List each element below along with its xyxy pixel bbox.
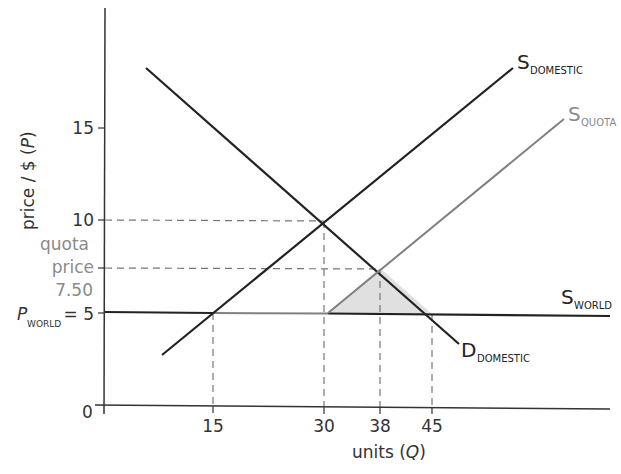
svg-text:S: S [561, 285, 574, 309]
y-tick-label-10: 10 [72, 210, 94, 230]
svg-text:= 5: = 5 [64, 304, 94, 324]
quota-price-label-line1: quota [40, 234, 89, 254]
s-domestic-label: S DOMESTIC [517, 50, 583, 76]
x-tick-label-45: 45 [421, 416, 443, 436]
y-tick-label-15: 15 [72, 118, 94, 138]
x-tick-label-38: 38 [369, 416, 391, 436]
s-world-line-mid [213, 313, 328, 314]
y-axis [104, 8, 105, 414]
d-domestic-curve [146, 68, 459, 344]
svg-text:D: D [461, 338, 476, 362]
origin-label: 0 [82, 402, 93, 422]
svg-text:S: S [568, 102, 581, 126]
x-tick-label-15: 15 [202, 416, 224, 436]
s-world-line-right [328, 314, 610, 317]
x-tick-label-30: 30 [313, 416, 335, 436]
s-world-line-left [105, 312, 213, 313]
svg-text:WORLD: WORLD [574, 300, 612, 311]
x-axis-title: units (Q) [352, 442, 426, 462]
svg-text:QUOTA: QUOTA [581, 117, 616, 128]
svg-text:DOMESTIC: DOMESTIC [530, 65, 583, 76]
y-axis-title: price / $ (P) [18, 131, 38, 230]
p-world-label: P WORLD = 5 [17, 304, 94, 329]
quota-supply-demand-chart: 15 10 quota price 7.50 P WORLD = 5 0 15 … [0, 0, 621, 474]
s-world-label: S WORLD [561, 285, 612, 311]
svg-text:S: S [517, 50, 530, 74]
s-quota-label: S QUOTA [568, 102, 616, 128]
ref-line-p10 [105, 220, 324, 221]
ref-line-p7_50 [105, 268, 380, 269]
s-quota-curve [328, 119, 564, 313]
svg-text:DOMESTIC: DOMESTIC [477, 353, 530, 364]
x-axis [95, 405, 610, 409]
d-domestic-label: D DOMESTIC [461, 338, 530, 364]
quota-price-label-line2: price [52, 257, 94, 277]
quota-price-label-line3: 7.50 [55, 280, 93, 300]
svg-text:WORLD: WORLD [27, 319, 61, 329]
